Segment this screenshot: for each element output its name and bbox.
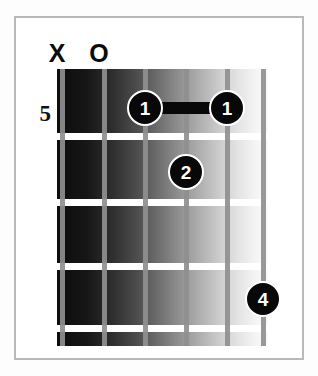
fretboard-gradient <box>57 69 268 346</box>
string-line <box>261 69 266 346</box>
fret-line <box>57 133 268 140</box>
fretboard <box>57 69 268 346</box>
fret-line <box>57 199 268 206</box>
fret-line <box>57 263 268 270</box>
chord-diagram-card: XO 5 1124 <box>0 0 318 376</box>
fret-line <box>57 325 268 332</box>
base-fret-label: 5 <box>40 102 52 125</box>
string-line <box>225 69 230 346</box>
string-line <box>102 69 107 346</box>
string-line <box>184 69 189 346</box>
string-line <box>60 69 65 346</box>
string-line <box>143 69 148 346</box>
